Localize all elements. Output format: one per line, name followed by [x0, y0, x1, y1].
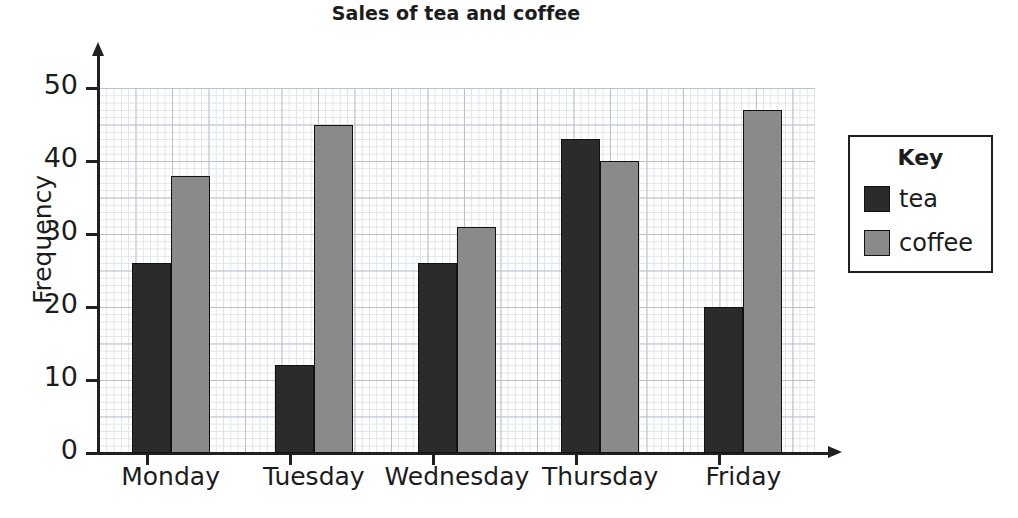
bar-tea-monday: [132, 263, 171, 453]
y-axis-tick: [86, 379, 99, 382]
y-axis-tick-label: 50: [8, 69, 78, 100]
x-axis-label-tuesday: Tuesday: [232, 462, 395, 491]
x-axis-label-monday: Monday: [89, 462, 252, 491]
y-axis-tick-label: 10: [8, 361, 78, 392]
legend-item-coffee: coffee: [864, 230, 973, 256]
chart-title: Sales of tea and coffee: [0, 2, 912, 24]
y-axis-tick-label: 30: [8, 215, 78, 246]
y-axis-tick: [86, 452, 99, 455]
legend-swatch-coffee-icon: [864, 230, 890, 256]
chart-legend: Key tea coffee: [848, 135, 993, 273]
y-axis-tick: [86, 306, 99, 309]
y-axis-tick-label: 0: [8, 434, 78, 465]
bar-tea-thursday: [561, 139, 600, 453]
bar-tea-wednesday: [418, 263, 457, 453]
y-axis-tick: [86, 87, 99, 90]
x-axis-label-friday: Friday: [662, 462, 825, 491]
bar-coffee-tuesday: [314, 125, 353, 454]
legend-label-coffee: coffee: [899, 231, 973, 255]
y-axis-arrow-icon: [92, 42, 104, 56]
y-axis-tick-label: 40: [8, 142, 78, 173]
x-axis-label-thursday: Thursday: [519, 462, 682, 491]
y-axis-tick: [86, 233, 99, 236]
y-axis-tick: [86, 160, 99, 163]
bar-tea-tuesday: [275, 365, 314, 453]
y-axis-line: [97, 52, 100, 455]
legend-label-tea: tea: [899, 187, 938, 211]
bar-coffee-friday: [743, 110, 782, 453]
bar-chart: Sales of tea and coffee Frequency 010203…: [0, 0, 1018, 518]
x-axis-arrow-icon: [828, 446, 842, 458]
bar-tea-friday: [704, 307, 743, 453]
bar-coffee-thursday: [600, 161, 639, 453]
legend-item-tea: tea: [864, 186, 938, 212]
bar-coffee-wednesday: [457, 227, 496, 453]
y-axis-tick-label: 20: [8, 288, 78, 319]
x-axis-label-wednesday: Wednesday: [375, 462, 538, 491]
legend-swatch-tea-icon: [864, 186, 890, 212]
legend-title: Key: [850, 145, 991, 170]
bar-coffee-monday: [171, 176, 210, 453]
